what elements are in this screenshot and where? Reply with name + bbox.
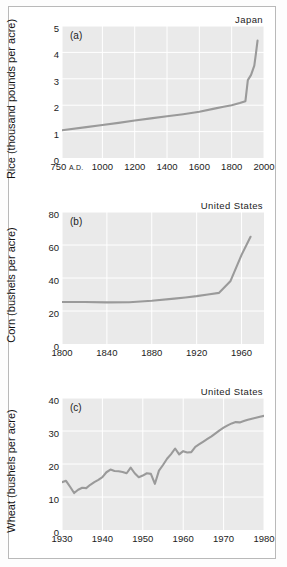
panel-c-y-axis-label: Wheat (bushels per acre) xyxy=(2,378,20,564)
panel-c-x-ticks: 193019401950196019701980 xyxy=(62,532,264,548)
x-tick-label: 1930 xyxy=(51,533,72,544)
chart-panel-wheat-us: United States Wheat (bushels per acre) 0… xyxy=(0,378,287,564)
plot-svg xyxy=(62,26,264,158)
x-tick-label: 1970 xyxy=(213,533,234,544)
panel-b-y-axis-label-text: Corn (bushels per acre) xyxy=(5,227,17,343)
panel-b-plot-area xyxy=(62,212,264,344)
y-tick-label: 5 xyxy=(26,23,62,34)
x-tick-label: 2000 xyxy=(253,161,274,172)
y-tick-label: 10 xyxy=(26,494,62,505)
panel-b-plot-wrap: 020406080 18001840188019201960 (b) xyxy=(22,210,287,378)
y-tick-label: 2 xyxy=(26,102,62,113)
data-series-line xyxy=(62,41,258,131)
panel-c-y-axis-label-text: Wheat (bushels per acre) xyxy=(5,409,17,533)
x-tick-label: 1840 xyxy=(96,347,117,358)
panel-a-y-ticks: 012345 xyxy=(22,26,62,158)
panel-a-y-axis-label-text: Rice (thousand pounds per acre) xyxy=(5,19,17,179)
x-tick-label: 1920 xyxy=(186,347,207,358)
y-tick-label: 20 xyxy=(26,461,62,472)
panel-a-plot-area xyxy=(62,26,264,158)
panel-c-plot-wrap: 010203040 193019401950196019701980 (c) xyxy=(22,396,287,564)
data-series-line xyxy=(62,237,251,303)
panel-a-plot-wrap: 012345 750 A.D.100012001400160018002000 … xyxy=(22,24,287,192)
x-tick-label: 1960 xyxy=(231,347,252,358)
panel-a-y-axis-label: Rice (thousand pounds per acre) xyxy=(2,6,20,192)
panel-a-x-ticks: 750 A.D.100012001400160018002000 xyxy=(62,160,264,176)
x-tick-label: 1000 xyxy=(92,161,113,172)
x-tick-label: 1800 xyxy=(51,347,72,358)
panel-c-y-ticks: 010203040 xyxy=(22,398,62,530)
y-tick-label: 40 xyxy=(26,395,62,406)
figure-root: Japan Rice (thousand pounds per acre) 01… xyxy=(0,0,287,567)
y-tick-label: 3 xyxy=(26,75,62,86)
x-tick-label: 1800 xyxy=(221,161,242,172)
x-tick-label: 1600 xyxy=(189,161,210,172)
chart-panel-corn-us: United States Corn (bushels per acre) 02… xyxy=(0,192,287,378)
x-tick-label: 1960 xyxy=(173,533,194,544)
x-tick-label: 1880 xyxy=(141,347,162,358)
panel-a-tag: (a) xyxy=(70,30,82,41)
panel-b-y-axis-label: Corn (bushels per acre) xyxy=(2,192,20,378)
y-tick-label: 20 xyxy=(26,308,62,319)
panel-c-tag: (c) xyxy=(70,402,82,413)
y-tick-label: 30 xyxy=(26,428,62,439)
x-tick-label: 750 A.D. xyxy=(50,161,83,172)
y-tick-label: 4 xyxy=(26,49,62,60)
y-tick-label: 80 xyxy=(26,209,62,220)
x-tick-label: 1200 xyxy=(124,161,145,172)
x-tick-label: 1400 xyxy=(156,161,177,172)
panel-b-tag: (b) xyxy=(70,216,82,227)
y-tick-label: 40 xyxy=(26,275,62,286)
panel-c-plot-area xyxy=(62,398,264,530)
plot-svg xyxy=(62,398,264,530)
plot-svg xyxy=(62,212,264,344)
y-tick-label: 1 xyxy=(26,128,62,139)
x-tick-label: 1980 xyxy=(253,533,274,544)
y-tick-label: 60 xyxy=(26,242,62,253)
chart-panel-rice-japan: Japan Rice (thousand pounds per acre) 01… xyxy=(0,6,287,192)
x-tick-label: 1940 xyxy=(92,533,113,544)
x-tick-label: 1950 xyxy=(132,533,153,544)
panel-b-x-ticks: 18001840188019201960 xyxy=(62,346,264,362)
data-series-line xyxy=(62,416,264,493)
panel-b-y-ticks: 020406080 xyxy=(22,212,62,344)
